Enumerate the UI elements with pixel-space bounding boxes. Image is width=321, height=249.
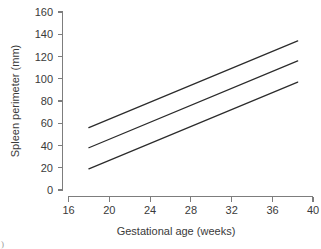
caption-fragment: ): [1, 240, 4, 249]
y-axis-title: Spleen perimeter (mm): [9, 45, 21, 157]
x-tick-label-40: 40: [307, 204, 319, 216]
x-tick-label-28: 28: [185, 204, 197, 216]
y-tick-label-60: 60: [41, 117, 53, 129]
x-axis-title: Gestational age (weeks): [117, 225, 236, 237]
y-tick-label-80: 80: [41, 95, 53, 107]
spleen-perimeter-chart: 160 140 120 100 80 60 40 20 0 16 20 24 2…: [0, 0, 321, 249]
y-tick-label-40: 40: [41, 140, 53, 152]
x-tick-label-36: 36: [266, 204, 278, 216]
chart-svg: 160 140 120 100 80 60 40 20 0 16 20 24 2…: [0, 0, 321, 249]
y-tick-label-160: 160: [35, 6, 53, 18]
x-tick-label-32: 32: [226, 204, 238, 216]
x-tick-label-20: 20: [103, 204, 115, 216]
y-tick-label-120: 120: [35, 51, 53, 63]
y-tick-label-0: 0: [47, 184, 53, 196]
y-tick-label-100: 100: [35, 73, 53, 85]
y-tick-label-140: 140: [35, 28, 53, 40]
y-tick-label-20: 20: [41, 162, 53, 174]
x-tick-label-24: 24: [144, 204, 156, 216]
x-tick-label-16: 16: [62, 204, 74, 216]
